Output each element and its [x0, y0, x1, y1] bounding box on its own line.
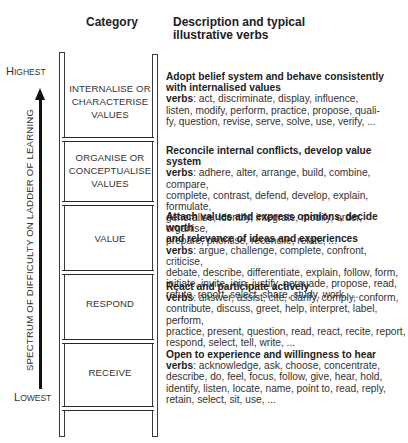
- description-internalise: Adopt belief system and behave consisten…: [166, 71, 406, 127]
- ladder-rung: [62, 201, 154, 206]
- category-respond: RESPOND: [66, 297, 154, 310]
- category-receive: RECEIVE: [66, 366, 154, 379]
- description-title: and relevance of ideas and experiences: [166, 233, 406, 244]
- ladder-rung: [62, 270, 154, 275]
- description-title: React and participate actively: [166, 281, 406, 292]
- description-title: Adopt belief system and behave consisten…: [166, 71, 406, 82]
- description-respond: React and participate actively verbs: an…: [166, 281, 406, 348]
- ladder-rung: [62, 137, 154, 142]
- verbs-list: verbs: answer, assist, cite, clarify, co…: [166, 292, 406, 303]
- category-header: Category: [86, 16, 138, 29]
- ladder-rung: [62, 406, 154, 411]
- verbs-list: verbs: argue, challenge, complete, confr…: [166, 245, 406, 267]
- description-title: with internalised values: [166, 82, 406, 93]
- category-internalise: INTERNALISE OR CHARACTERISE VALUES: [66, 82, 154, 121]
- category-value: VALUE: [66, 232, 154, 245]
- verbs-list: verbs: adhere, alter, arrange, build, co…: [166, 167, 406, 189]
- description-header: Description and typical illustrative ver…: [173, 16, 305, 42]
- ladder-left-rail: [59, 52, 65, 437]
- description-title: Open to experience and willingness to he…: [166, 349, 406, 360]
- ladder-rung: [62, 339, 154, 344]
- description-title: Attach values and express opinions, deci…: [166, 211, 406, 233]
- highest-label: HIGHEST: [6, 65, 46, 77]
- description-title: Reconcile internal conflicts, develop va…: [166, 145, 406, 167]
- lowest-label: LOWEST: [14, 391, 51, 403]
- category-organise: ORGANISE OR CONCEPTUALISE VALUES: [66, 151, 154, 190]
- arrow-shaft: [39, 98, 42, 389]
- verbs-list: verbs: acknowledge, ask, choose, concent…: [166, 360, 406, 371]
- description-receive: Open to experience and willingness to he…: [166, 349, 406, 405]
- description-header-line2: illustrative verbs: [173, 29, 305, 42]
- difficulty-spectrum-label: SPECTRUM OF DIFFICULTY ON LADDER OF LEAR…: [24, 109, 35, 371]
- verbs-list: verbs: act, discriminate, display, influ…: [166, 93, 406, 104]
